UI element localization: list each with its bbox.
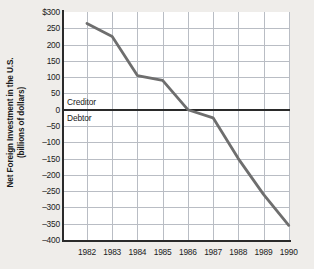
- x-axis-tick-label: 1983: [103, 248, 121, 256]
- x-axis-tick-label: 1982: [78, 248, 96, 256]
- x-axis-tick-label: 1989: [255, 248, 273, 256]
- chart-container: Net Foreign Investment in the U.S. (bill…: [0, 0, 314, 269]
- x-axis-tick-label: 1984: [128, 248, 146, 256]
- x-axis-tick-label: 1988: [229, 248, 247, 256]
- x-axis-tick-label: 1987: [204, 248, 222, 256]
- x-axis-tick-label: 1990: [280, 248, 298, 256]
- x-axis-tick-label: 1986: [179, 248, 197, 256]
- x-axis-tick-label: 1985: [154, 248, 172, 256]
- x-axis-tick-labels: 198219831984198519861987198819891990: [0, 0, 314, 269]
